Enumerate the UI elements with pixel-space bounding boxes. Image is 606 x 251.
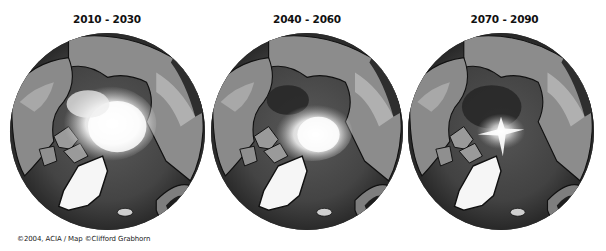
map-credit: ©2004, ACIA / Map ©Clifford Grabhorn xyxy=(17,235,150,243)
map-panel-2040-2060: 2040 - 2060 xyxy=(206,0,408,235)
map-panel-2010-2030: 2010 - 2030 xyxy=(0,0,214,235)
panel-title: 2010 - 2030 xyxy=(0,13,214,25)
arctic-map-graphic xyxy=(408,33,594,230)
arctic-polar-map xyxy=(408,33,594,230)
map-panel-2070-2090: 2070 - 2090 xyxy=(403,0,606,235)
arctic-polar-map xyxy=(10,33,205,230)
panel-title: 2070 - 2090 xyxy=(403,13,606,25)
arctic-polar-map xyxy=(211,33,403,230)
panel-title: 2040 - 2060 xyxy=(206,13,408,25)
arctic-map-graphic xyxy=(211,33,403,230)
arctic-map-graphic xyxy=(10,33,205,230)
